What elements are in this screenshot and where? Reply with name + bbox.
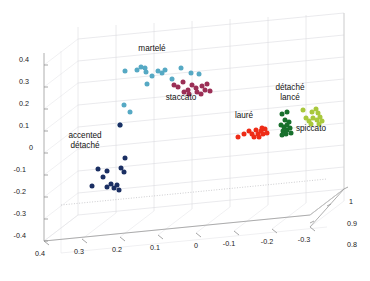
z-axis-tick-labels: 10.90.8 bbox=[347, 197, 357, 249]
data-point bbox=[200, 84, 205, 89]
data-point bbox=[242, 132, 247, 137]
series-détaché-lancé bbox=[279, 110, 294, 138]
data-point bbox=[105, 185, 110, 190]
cluster-label-détaché-lancé-line2: lancé bbox=[280, 93, 300, 102]
data-point bbox=[122, 103, 127, 108]
data-point bbox=[144, 70, 149, 75]
data-point bbox=[280, 112, 285, 117]
x-axis-ticks bbox=[44, 227, 315, 245]
data-point bbox=[117, 188, 122, 193]
x-tick-label: -0.1 bbox=[223, 239, 235, 248]
data-point bbox=[265, 131, 270, 136]
y-tick-label: -0.4 bbox=[14, 231, 26, 240]
z-tick-label: 1 bbox=[349, 197, 353, 206]
x-tick-label: -0.3 bbox=[298, 235, 310, 244]
z-axis-ticks bbox=[310, 187, 348, 227]
data-point bbox=[181, 80, 186, 85]
data-point bbox=[118, 123, 123, 128]
scatter-plot-3d: 0.40.30.20.10-0.1-0.2-0.3-0.4 0.40.30.20… bbox=[0, 0, 370, 281]
data-point bbox=[203, 88, 208, 93]
data-point bbox=[123, 156, 128, 161]
data-point bbox=[197, 72, 202, 77]
y-tick-label: 0.3 bbox=[19, 77, 29, 86]
figure-canvas: 0.40.30.20.10-0.1-0.2-0.3-0.4 0.40.30.20… bbox=[0, 0, 370, 281]
depth-dotted-line bbox=[61, 179, 327, 205]
data-point bbox=[123, 69, 128, 74]
data-point bbox=[310, 110, 315, 115]
cluster-label-staccato: staccato bbox=[166, 93, 197, 102]
data-point bbox=[189, 71, 194, 76]
data-point bbox=[176, 85, 181, 90]
data-point bbox=[122, 170, 127, 175]
data-point bbox=[257, 135, 262, 140]
x-tick-label: 0.2 bbox=[112, 245, 122, 254]
x-tick-label: 0.4 bbox=[35, 249, 45, 258]
data-point bbox=[287, 120, 292, 125]
series-lauré bbox=[236, 126, 270, 140]
x-tick-label: -0.2 bbox=[261, 237, 273, 246]
cluster-label-accented-détaché-line1: accented bbox=[68, 131, 102, 140]
data-point bbox=[179, 66, 184, 71]
cluster-label-lauré: lauré bbox=[235, 111, 254, 120]
y-tick-label: 0.2 bbox=[19, 99, 29, 108]
data-point bbox=[252, 135, 257, 140]
cluster-label-détaché-lancé-line1: détaché bbox=[275, 83, 305, 92]
data-point bbox=[288, 126, 293, 131]
data-point bbox=[260, 126, 265, 131]
x-tick-label: 0 bbox=[194, 241, 198, 250]
data-point bbox=[101, 175, 106, 180]
data-point bbox=[105, 169, 110, 174]
z-tick-label: 0.9 bbox=[347, 219, 357, 228]
data-point bbox=[170, 77, 175, 82]
data-point bbox=[301, 108, 306, 113]
x-axis-tick-labels: 0.40.30.20.10-0.1-0.2-0.3 bbox=[35, 235, 310, 258]
data-point bbox=[109, 182, 114, 187]
data-point bbox=[90, 184, 95, 189]
x-tick-label: 0.1 bbox=[150, 243, 160, 252]
data-point bbox=[199, 92, 204, 97]
data-point bbox=[208, 89, 213, 94]
y-tick-label: -0.1 bbox=[14, 165, 26, 174]
data-point bbox=[119, 166, 124, 171]
data-point bbox=[190, 83, 195, 88]
data-point bbox=[145, 82, 150, 87]
x-tick-label: 0.3 bbox=[74, 247, 84, 256]
data-point bbox=[163, 68, 168, 73]
y-tick-label: -0.2 bbox=[14, 187, 26, 196]
data-point bbox=[236, 135, 241, 140]
y-axis-tick-labels: 0.40.30.20.10-0.1-0.2-0.3-0.4 bbox=[14, 55, 33, 240]
data-point bbox=[115, 183, 120, 188]
data-point bbox=[289, 131, 294, 136]
data-point bbox=[128, 110, 133, 115]
data-point bbox=[205, 82, 210, 87]
cluster-label-spiccato: spiccato bbox=[296, 124, 326, 133]
cluster-label-martelé: martelé bbox=[138, 44, 166, 53]
data-point bbox=[280, 133, 285, 138]
z-tick-label: 0.8 bbox=[347, 240, 357, 249]
data-point bbox=[135, 68, 140, 73]
y-tick-label: 0.1 bbox=[19, 121, 29, 130]
y-tick-label: -0.3 bbox=[14, 209, 26, 218]
data-point bbox=[96, 167, 101, 172]
y-tick-label: 0.4 bbox=[19, 55, 29, 64]
data-point bbox=[285, 110, 290, 115]
y-axis-ticks bbox=[44, 65, 48, 241]
data-point bbox=[150, 74, 155, 79]
y-tick-label: 0 bbox=[29, 143, 33, 152]
cluster-label-accented-détaché-line2: détaché bbox=[70, 141, 100, 150]
